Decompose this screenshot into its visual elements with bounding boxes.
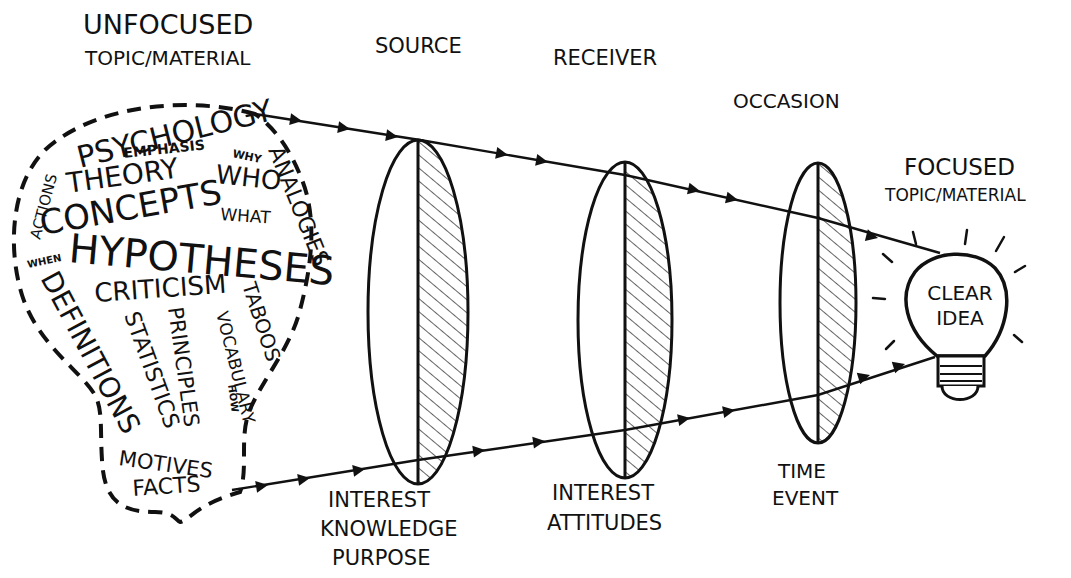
bulb-word-cloud: PSYCHOLOGY EMPHASIS WHY ACTIONS THEORY W… xyxy=(26,92,336,501)
diagram-canvas: CLEAR IDEA PSYCHOLOGY EMPHASIS WHY ACTIO… xyxy=(0,0,1071,578)
source-factor-interest: INTEREST xyxy=(328,488,430,512)
unfocused-heading: UNFOCUSED xyxy=(83,9,253,40)
focused-subheading: TOPIC/MATERIAL xyxy=(884,185,1026,205)
receiver-factor-attitudes: ATTITUDES xyxy=(547,511,662,535)
unfocused-subheading: TOPIC/MATERIAL xyxy=(84,46,251,70)
word-what: WHAT xyxy=(220,204,272,228)
occasion-factor-time: TIME xyxy=(777,459,826,483)
occasion-heading: OCCASION xyxy=(733,89,840,113)
word-facts: FACTS xyxy=(132,471,202,501)
clear-idea-lightbulb: CLEAR IDEA xyxy=(873,230,1025,400)
source-factor-knowledge: KNOWLEDGE xyxy=(320,517,457,541)
communication-focus-diagram: CLEAR IDEA PSYCHOLOGY EMPHASIS WHY ACTIO… xyxy=(0,0,1071,578)
clear-label: CLEAR xyxy=(927,281,992,305)
lens-source xyxy=(368,130,478,500)
word-taboos: TABOOS xyxy=(237,278,285,364)
source-factor-purpose: PURPOSE xyxy=(332,546,430,570)
lens-receiver xyxy=(578,160,680,490)
occasion-factor-event: EVENT xyxy=(772,486,839,510)
focused-heading: FOCUSED xyxy=(904,154,1015,180)
source-heading: SOURCE xyxy=(375,34,462,58)
receiver-factor-interest: INTEREST xyxy=(552,481,654,505)
idea-label: IDEA xyxy=(936,306,984,330)
word-when: WHEN xyxy=(26,252,62,270)
lens-occasion xyxy=(780,160,863,450)
receiver-heading: RECEIVER xyxy=(553,46,657,70)
